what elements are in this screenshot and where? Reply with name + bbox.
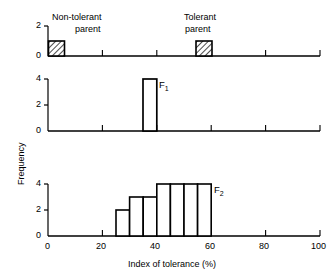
parents-ytick-label-0: 0 [36,50,41,60]
tolerant-parent-label-line2: parent [185,24,211,34]
xtick-label-20: 20 [96,241,106,251]
f1-ytick-label-4: 4 [36,73,41,83]
f2-ytick-label-4: 4 [36,178,41,188]
y-axis-title: Frequency [16,142,26,185]
f1-ytick-label-0: 0 [36,125,41,135]
xtick-label-60: 60 [205,241,215,251]
f2-ytick-label-0: 0 [36,230,41,240]
tolerance-histogram-figure: 2 0 Non-tolerant parent Tolerant parent … [0,0,335,278]
x-axis-title: Index of tolerance (%) [128,259,216,269]
f1-series-label-sub: 1 [165,85,169,92]
parents-ytick-label-2: 2 [36,20,41,30]
bar-f2-bin-2 [130,197,144,236]
bar-f2-bin-7 [198,184,212,236]
xtick-label-40: 40 [150,241,160,251]
bar-f2-bin-1 [116,210,130,236]
bar-f2-bin-4 [157,184,171,236]
f1-ytick-label-2: 2 [36,99,41,109]
tolerant-parent-label-line1: Tolerant [184,12,216,22]
non-tolerant-parent-label-line2: parent [75,24,101,34]
xtick-label-0: 0 [45,241,50,251]
non-tolerant-parent-label-line1: Non-tolerant [52,12,102,22]
f1-series-label: F1 [159,79,169,92]
bar-f2-bin-3 [143,197,157,236]
f2-series-label: F2 [214,184,224,197]
bar-tolerant-parent [196,41,212,56]
histogram-svg [0,0,335,278]
panel-f2 [44,184,320,236]
xtick-label-100: 100 [311,241,326,251]
bar-f1 [143,79,157,131]
bar-f2-bin-5 [170,184,184,236]
bar-f2-bin-6 [184,184,198,236]
panel-f1 [44,79,320,131]
f2-ytick-label-2: 2 [36,204,41,214]
xtick-label-80: 80 [259,241,269,251]
f2-series-label-sub: 2 [220,190,224,197]
bar-non-tolerant-parent [49,41,65,56]
